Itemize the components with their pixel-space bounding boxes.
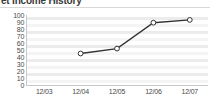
series-line [81, 20, 190, 54]
series-data-point[interactable] [115, 46, 120, 51]
series-data-point[interactable] [187, 18, 192, 23]
chart-series-layer [0, 0, 210, 102]
series-data-point[interactable] [78, 51, 83, 56]
net-income-history-chart-widget: et Income History 1009080706050403020100… [0, 0, 210, 102]
series-data-point[interactable] [151, 20, 156, 25]
